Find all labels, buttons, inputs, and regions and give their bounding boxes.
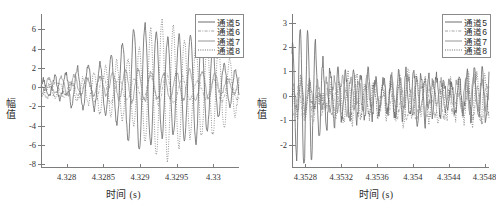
x-tick-label: 4.3532 — [330, 172, 353, 182]
panel-right: 幅 值 -2-10123 4.35284.35324.35364.3544.35… — [247, 0, 495, 209]
y-tick-label: -1 — [280, 115, 287, 125]
legend-line-sample-icon — [198, 46, 215, 54]
y-tick-label: 6 — [32, 24, 36, 34]
x-tick-label: 4.33 — [206, 172, 221, 182]
x-tick-label: 4.3285 — [92, 172, 115, 182]
x-tick-label: 4.3548 — [473, 172, 496, 182]
y-tick-label: 4 — [32, 44, 36, 54]
y-tick-inner — [42, 106, 45, 107]
x-tick — [140, 164, 141, 168]
y-tick-label: -2 — [280, 140, 287, 150]
y-tick-label: 0 — [283, 91, 287, 101]
panel-left: 幅 值 -8-6-4-20246 4.3284.32854.3294.32954… — [0, 0, 247, 209]
y-tick-label: 1 — [283, 66, 287, 76]
y-tick-label: -6 — [29, 140, 36, 150]
x-tick — [449, 164, 450, 168]
y-tick-inner — [293, 120, 296, 121]
legend-item[interactable]: 通道8 — [445, 46, 487, 56]
x-tick — [413, 164, 414, 168]
legend-line-sample-icon — [445, 18, 462, 26]
x-tick-label: 4.354 — [403, 172, 422, 182]
legend-label: 通道8 — [217, 44, 240, 56]
y-tick-inner — [42, 126, 45, 127]
y-tick-inner — [42, 68, 45, 69]
y-tick-label: 2 — [283, 42, 287, 52]
x-tick-label: 4.3544 — [437, 172, 460, 182]
x-tick — [103, 164, 104, 168]
legend-line-sample-icon — [445, 27, 462, 35]
y-tick-inner — [293, 47, 296, 48]
y-tick-inner — [42, 145, 45, 146]
y-tick-label: 3 — [283, 18, 287, 28]
y-tick-inner — [42, 164, 45, 165]
legend-line-sample-icon — [445, 37, 462, 45]
x-tick-label: 4.328 — [57, 172, 76, 182]
y-tick-inner — [293, 96, 296, 97]
x-tick-label: 4.329 — [130, 172, 149, 182]
legend-label: 通道8 — [464, 44, 487, 56]
y-tick-inner — [293, 71, 296, 72]
y-tick-label: -8 — [29, 159, 36, 169]
y-tick-label: -2 — [29, 101, 36, 111]
x-tick — [213, 164, 214, 168]
y-tick-label: 0 — [32, 82, 36, 92]
x-tick-label: 4.3295 — [165, 172, 188, 182]
y-tick-inner — [293, 145, 296, 146]
y-tick-label: 2 — [32, 63, 36, 73]
x-tick — [305, 164, 306, 168]
legend-line-sample-icon — [198, 37, 215, 45]
x-axis-title-right: 时间 (s) — [257, 186, 495, 201]
y-axis-title-left: 幅 值 — [4, 98, 17, 120]
legend-item[interactable]: 通道8 — [198, 46, 240, 56]
y-tick-inner — [293, 23, 296, 24]
legend-line-sample-icon — [198, 27, 215, 35]
y-tick-inner — [42, 29, 45, 30]
x-axis-title-left: 时间 (s) — [0, 186, 247, 201]
y-tick-inner — [42, 49, 45, 50]
x-tick — [377, 164, 378, 168]
x-tick-label: 4.3536 — [365, 172, 388, 182]
legend-right: 通道5通道6通道7通道8 — [442, 14, 491, 58]
legend-line-sample-icon — [198, 18, 215, 26]
legend-line-sample-icon — [445, 46, 462, 54]
x-tick — [485, 164, 486, 168]
y-tick-inner — [42, 87, 45, 88]
x-tick — [341, 164, 342, 168]
legend-left: 通道5通道6通道7通道8 — [195, 14, 244, 58]
y-axis-title-right: 幅 值 — [255, 98, 268, 120]
x-tick — [67, 164, 68, 168]
x-tick — [177, 164, 178, 168]
x-tick-label: 4.3528 — [294, 172, 317, 182]
y-tick-label: -4 — [29, 121, 36, 131]
